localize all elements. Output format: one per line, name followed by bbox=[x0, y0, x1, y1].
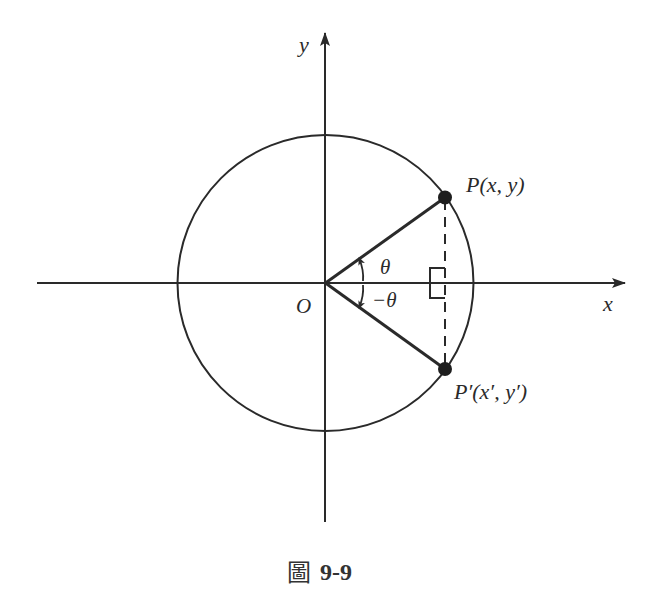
x-axis-label: x bbox=[602, 291, 613, 316]
point-p bbox=[438, 191, 452, 205]
point-p-prime-label: P′(x′, y′) bbox=[453, 379, 527, 404]
neg-theta-arc-arrow bbox=[359, 285, 363, 308]
unit-circle-diagram: y x O P(x, y) P′(x′, y′) θ −θ 圖 9-9 bbox=[0, 0, 650, 612]
figure-caption-number: 9-9 bbox=[320, 559, 352, 585]
point-p-label: P(x, y) bbox=[465, 172, 525, 197]
figure-caption-prefix: 圖 bbox=[287, 559, 311, 587]
theta-arc-arrow bbox=[359, 258, 363, 281]
point-p-prime bbox=[438, 362, 452, 376]
theta-label: θ bbox=[380, 255, 390, 279]
origin-label: O bbox=[296, 294, 311, 318]
y-axis-label: y bbox=[297, 32, 309, 57]
neg-theta-label: −θ bbox=[372, 288, 397, 312]
